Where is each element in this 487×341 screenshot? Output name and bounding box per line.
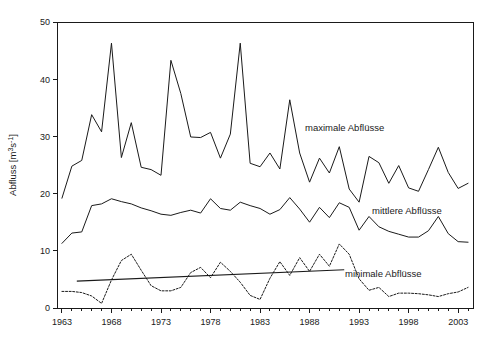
series-annotation-label: minimale Abflüsse <box>345 268 422 279</box>
y-axis-title-text: Abfluss [m3s-1] <box>7 134 18 196</box>
x-axis-ticks: 196319681973197819831988199319982003 <box>52 308 468 327</box>
x-tick-label: 1988 <box>300 317 320 327</box>
y-tick-label: 50 <box>40 17 50 27</box>
x-tick-label: 1993 <box>349 317 369 327</box>
x-tick-label: 1968 <box>101 317 121 327</box>
x-tick-label: 2003 <box>448 317 468 327</box>
discharge-line-chart: 01020304050 1963196819731978198319881993… <box>0 0 487 341</box>
chart-container: 01020304050 1963196819731978198319881993… <box>0 0 487 341</box>
series-lines <box>62 43 468 303</box>
y-tick-label: 10 <box>40 246 50 256</box>
y-title-part: Abfluss [m <box>7 152 18 196</box>
minimal-trend-line <box>77 270 344 281</box>
y-axis-ticks: 01020304050 <box>40 17 57 313</box>
series-line-maximale <box>62 43 468 202</box>
x-tick-label: 1998 <box>399 317 419 327</box>
x-tick-label: 1983 <box>250 317 270 327</box>
trend-line-group <box>77 270 344 281</box>
x-tick-label: 1963 <box>52 317 72 327</box>
x-tick-label: 1973 <box>151 317 171 327</box>
y-tick-label: 20 <box>40 189 50 199</box>
series-annotation-label: maximale Abflüsse <box>305 122 384 133</box>
y-title-part: ] <box>7 134 18 137</box>
series-annotations: maximale Abflüssemittlere Abflüsseminima… <box>305 122 442 279</box>
series-annotation-label: mittlere Abflüsse <box>372 205 442 216</box>
y-axis-title: Abfluss [m3s-1] <box>7 134 18 196</box>
x-tick-label: 1978 <box>201 317 221 327</box>
y-tick-label: 40 <box>40 75 50 85</box>
y-tick-label: 30 <box>40 132 50 142</box>
y-tick-label: 0 <box>45 303 50 313</box>
